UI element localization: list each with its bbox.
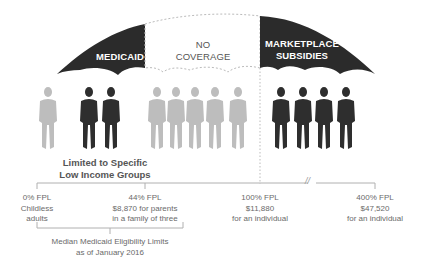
fpl-scale [37, 183, 375, 234]
tick-0-line1: 0% FPL [12, 193, 62, 204]
tick-label-400-fpl: 400% FPL $47,520 for an individual [340, 193, 410, 225]
tick-3-line2: $47,520 [340, 204, 410, 215]
tick-1-line3: in a family of three [105, 214, 185, 225]
person-figure-covered [337, 87, 355, 149]
marketplace-label-line1: MARKETPLACE [262, 38, 342, 50]
person-figure-covered [80, 87, 98, 149]
tick-3-line1: 400% FPL [340, 193, 410, 204]
tick-3-line3: for an individual [340, 214, 410, 225]
medicaid-umbrella-segment [57, 24, 145, 75]
person-figure-covered [294, 87, 312, 149]
marketplace-label: MARKETPLACE SUBSIDIES [262, 38, 342, 62]
person-figure-uncovered [229, 87, 247, 149]
scale-break-symbol: // [305, 176, 310, 186]
tick-0-line2: Childless [12, 204, 62, 215]
tick-label-0-fpl: 0% FPL Childless adults [12, 193, 62, 225]
limited-groups-caption: Limited to Specific Low Income Groups [55, 157, 155, 181]
tick-1-line1: 44% FPL [105, 193, 185, 204]
median-note-line2: as of January 2016 [45, 248, 175, 259]
limited-groups-caption-line2: Low Income Groups [55, 169, 155, 181]
no-coverage-label: NO COVERAGE [168, 39, 238, 63]
tick-label-44-fpl: 44% FPL $8,870 for parents in a family o… [105, 193, 185, 225]
median-eligibility-note: Median Medicaid Eligibility Limits as of… [45, 237, 175, 258]
tick-label-100-fpl: 100% FPL $11,880 for an individual [225, 193, 295, 225]
person-figure-uncovered [186, 87, 204, 149]
limited-groups-caption-line1: Limited to Specific [55, 157, 155, 169]
tick-2-line3: for an individual [225, 214, 295, 225]
person-figure-uncovered [39, 87, 57, 149]
tick-2-line1: 100% FPL [225, 193, 295, 204]
medicaid-label: MEDICAID [90, 51, 150, 63]
no-coverage-label-line2: COVERAGE [168, 51, 238, 63]
tick-1-line2: $8,870 for parents [105, 204, 185, 215]
person-figure-covered [102, 87, 120, 149]
person-figure-uncovered [206, 87, 224, 149]
median-note-line1: Median Medicaid Eligibility Limits [45, 237, 175, 248]
people-figures [39, 87, 355, 149]
person-figure-uncovered [148, 87, 166, 149]
person-figure-uncovered [167, 87, 185, 149]
person-figure-covered [315, 87, 333, 149]
tick-2-line2: $11,880 [225, 204, 295, 215]
marketplace-label-line2: SUBSIDIES [262, 50, 342, 62]
tick-0-line3: adults [12, 214, 62, 225]
person-figure-covered [272, 87, 290, 149]
no-coverage-label-line1: NO [168, 39, 238, 51]
